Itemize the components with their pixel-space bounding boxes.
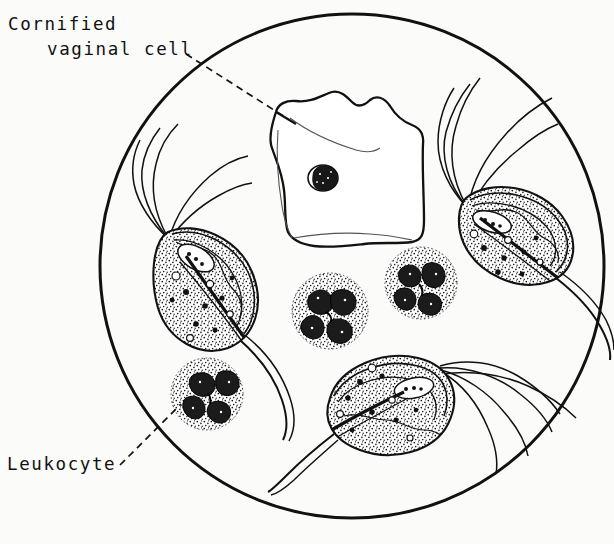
label-cornified-vaginal-cell-line1: Cornified: [8, 12, 117, 37]
cornified-cell-nucleus: [308, 165, 338, 191]
leukocyte-upper-right: [385, 247, 457, 319]
leader-line-leukocyte: [120, 404, 181, 465]
leukocyte-center: [292, 273, 368, 349]
cornified-vaginal-cell: [270, 92, 424, 247]
label-leukocyte: Leukocyte: [7, 452, 116, 477]
flagella: [133, 124, 252, 240]
flagella: [440, 362, 576, 474]
leukocyte-lower-left: [171, 358, 243, 430]
label-cornified-vaginal-cell-line2: vaginal cell: [47, 37, 193, 62]
trichomonad-bottom: [268, 356, 576, 495]
trichomonad-right: [438, 78, 614, 360]
microscopy-figure: Cornified vaginal cell Leukocyte: [0, 0, 614, 544]
